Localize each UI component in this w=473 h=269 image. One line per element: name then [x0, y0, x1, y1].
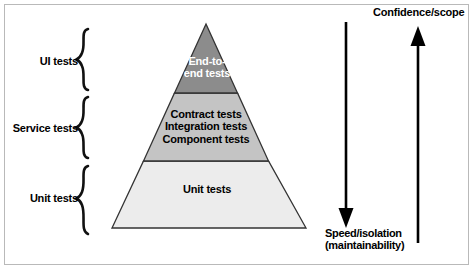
- brace-unit-tests: [77, 166, 89, 234]
- bracket-label-service-tests: Service tests: [13, 122, 78, 134]
- tier-top-line-1: End-to-: [188, 55, 225, 67]
- bracket-label-unit-tests: Unit tests: [30, 192, 78, 204]
- tier-mid-line-2: Integration tests: [165, 120, 247, 132]
- tier-mid-line-3: Component tests: [163, 133, 250, 145]
- speed-label-line-1: Speed/isolation: [325, 227, 402, 239]
- bracket-label-ui-tests: UI tests: [40, 55, 78, 67]
- axis-label-speed-isolation: Speed/isolation (maintainability): [325, 227, 404, 252]
- speed-label-line-2: (maintainability): [325, 239, 404, 251]
- figure-stage: UI tests Service tests Unit tests End-to…: [0, 0, 473, 269]
- pyramid-tier-label-unit: Unit tests: [140, 183, 274, 195]
- up-arrow: [411, 26, 426, 243]
- brace-service-tests: [77, 97, 89, 158]
- axis-label-confidence-scope: Confidence/scope: [373, 6, 465, 18]
- brace-ui-tests: [77, 29, 89, 90]
- pyramid-tier-label-end-to-end: End-to- end tests: [160, 55, 254, 80]
- tier-mid-line-1: Contract tests: [170, 108, 241, 120]
- test-pyramid-figure: UI tests Service tests Unit tests End-to…: [0, 0, 473, 269]
- bracket-group: [77, 29, 89, 234]
- pyramid-tier-label-service-level: Contract tests Integration tests Compone…: [131, 108, 281, 145]
- down-arrow: [339, 22, 354, 228]
- tier-top-line-2: end tests: [184, 67, 231, 79]
